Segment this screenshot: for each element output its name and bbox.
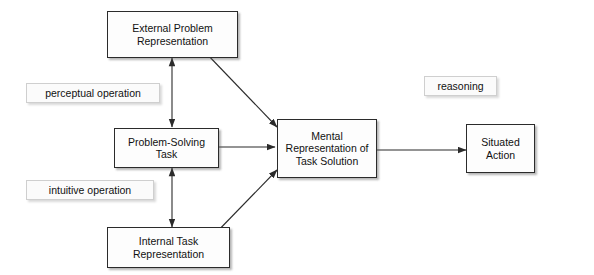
node-internal-task-representation[interactable]: Internal Task Representation bbox=[107, 227, 230, 268]
node-mental-representation-task-solution-label: Mental Representation of Task Solution bbox=[281, 130, 373, 168]
label-intuitive-operation: intuitive operation bbox=[26, 180, 154, 200]
node-mental-representation-task-solution[interactable]: Mental Representation of Task Solution bbox=[277, 119, 377, 178]
node-external-problem-representation-label: External Problem Representation bbox=[111, 22, 234, 47]
label-reasoning: reasoning bbox=[424, 76, 497, 96]
node-problem-solving-task[interactable]: Problem-Solving Task bbox=[114, 128, 219, 168]
label-perceptual-operation-text: perceptual operation bbox=[45, 87, 141, 100]
node-situated-action[interactable]: Situated Action bbox=[466, 124, 535, 173]
label-perceptual-operation: perceptual operation bbox=[26, 83, 160, 103]
node-internal-task-representation-label: Internal Task Representation bbox=[111, 235, 226, 260]
node-external-problem-representation[interactable]: External Problem Representation bbox=[107, 11, 238, 58]
node-situated-action-label: Situated Action bbox=[470, 136, 531, 161]
label-intuitive-operation-text: intuitive operation bbox=[49, 184, 131, 197]
node-problem-solving-task-label: Problem-Solving Task bbox=[118, 136, 215, 161]
label-reasoning-text: reasoning bbox=[437, 80, 483, 93]
edge-external-mental bbox=[205, 52, 277, 127]
diagram-canvas: External Problem Representation Problem-… bbox=[0, 0, 594, 275]
